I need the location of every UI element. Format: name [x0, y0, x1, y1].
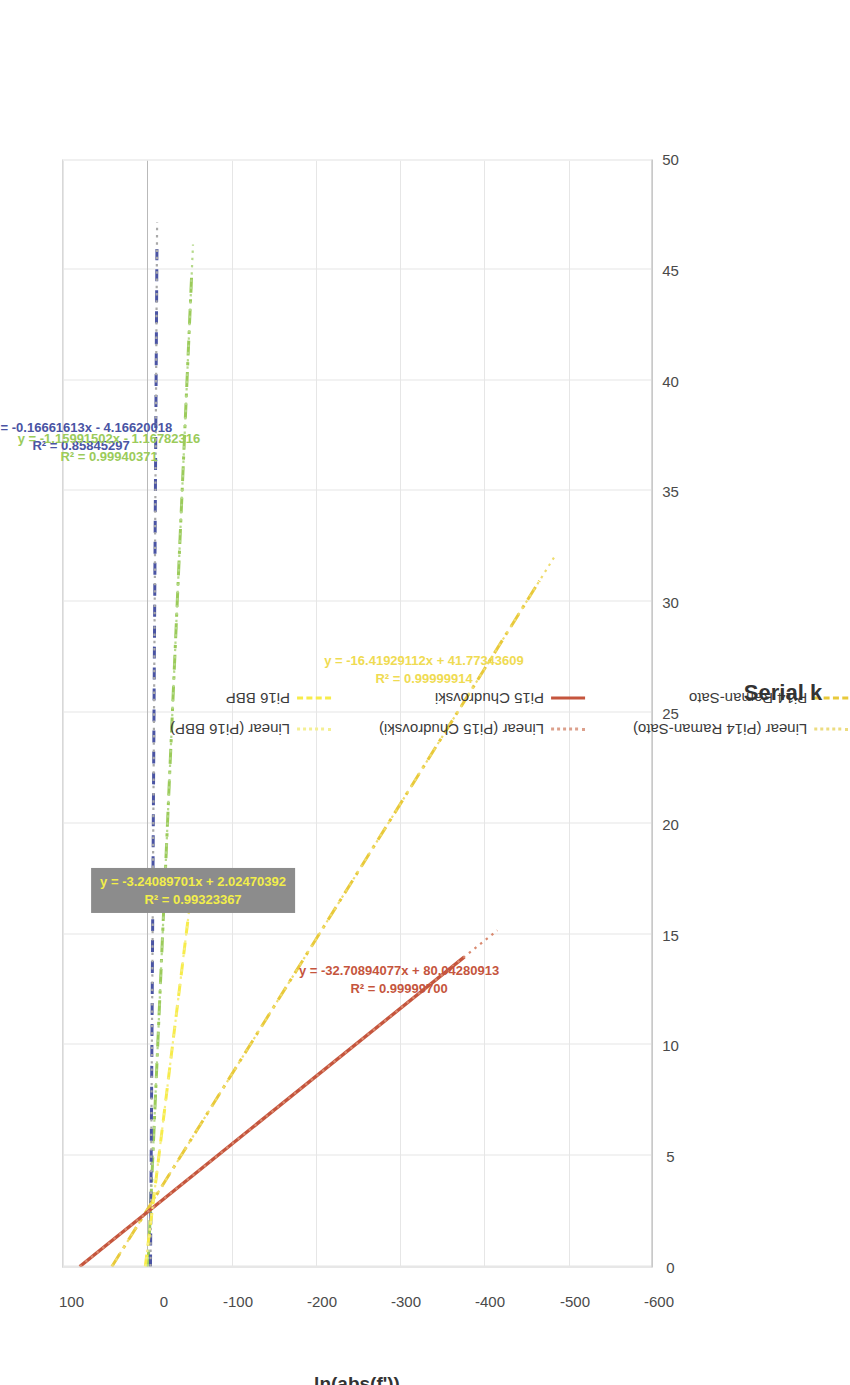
- x-axis-tick: 15: [662, 926, 679, 943]
- legend-label: Linear (Pi16 BBP): [170, 720, 290, 737]
- y-axis-tick: 0: [124, 1293, 168, 1310]
- legend-item[interactable]: Linear (Pi14 Raman-Sato): [633, 720, 848, 737]
- annotation-equation-pi8a-madrava: y = -1.15991502x - 1.16782316 R² = 0.999…: [18, 430, 201, 465]
- y-axis-title: ln(abs(f')): [314, 1372, 400, 1385]
- annotation-equation-pi15-chudrovski: y = -32.70894077x + 80.04280913 R² = 0.9…: [299, 961, 499, 996]
- x-axis-tick: 45: [662, 261, 679, 278]
- legend-swatch-icon: [551, 727, 585, 730]
- annotation-equation-text: y = -3.24089701x + 2.02470392: [100, 873, 286, 891]
- legend-label: Linear (Pi14 Raman-Sato): [633, 720, 807, 737]
- x-axis-tick: 50: [662, 151, 679, 168]
- annotation-equation-text: y = -16.41929112x + 41.77343609: [325, 651, 525, 669]
- y-axis-tick: -200: [293, 1293, 337, 1310]
- y-axis-tick: 100: [40, 1293, 84, 1310]
- chart-stage: 05101520253035404550 1000-100-200-300-40…: [0, 0, 850, 1385]
- x-axis-tick: 10: [662, 1037, 679, 1054]
- x-axis-tick: 30: [662, 594, 679, 611]
- legend-item[interactable]: Linear (Pi16 BBP): [170, 720, 331, 737]
- legend-label: Linear (Pi15 Chudrovski): [379, 720, 544, 737]
- x-axis-tick: 35: [662, 483, 679, 500]
- y-axis-tick: -300: [377, 1293, 421, 1310]
- x-axis-tick: 20: [662, 815, 679, 832]
- annotation-r2-text: R² = 0.99999700: [299, 979, 499, 997]
- y-axis-tick: -400: [461, 1293, 505, 1310]
- y-axis-tick: -600: [630, 1293, 674, 1310]
- annotation-r2-text: R² = 0.99940371: [18, 447, 201, 465]
- legend-swatch-icon: [814, 727, 848, 730]
- x-axis-tick: 5: [666, 1148, 674, 1165]
- x-axis-tick: 0: [666, 1259, 674, 1276]
- chart-title: Serial k: [91, 680, 850, 706]
- annotation-r2-text: R² = 0.99323367: [100, 890, 286, 908]
- annotation-equation-text: y = -1.15991502x - 1.16782316: [18, 430, 201, 448]
- y-axis-tick: -500: [546, 1293, 590, 1310]
- annotation-equation-pi16-bbp: y = -3.24089701x + 2.02470392 R² = 0.993…: [91, 868, 295, 913]
- y-axis-tick: -100: [209, 1293, 253, 1310]
- legend-swatch-icon: [297, 727, 331, 730]
- legend-item[interactable]: Linear (Pi15 Chudrovski): [379, 720, 585, 737]
- x-axis-tick: 40: [662, 372, 679, 389]
- annotation-equation-text: y = -32.70894077x + 80.04280913: [299, 961, 499, 979]
